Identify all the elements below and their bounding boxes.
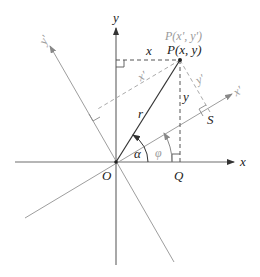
right-angle-marker-q xyxy=(172,154,180,162)
origin-label: O xyxy=(102,168,112,183)
point-p xyxy=(178,58,182,62)
dashed-x-prime-segment xyxy=(96,60,180,110)
segment-x-prime-label: x' xyxy=(134,68,149,85)
rotation-diagram: y x x' y' O Q S P(x', y') P(x, y) x y x'… xyxy=(0,0,260,277)
point-q-label: Q xyxy=(174,168,184,183)
angle-phi-arc xyxy=(164,133,172,162)
point-p-prime-label: P(x', y') xyxy=(164,29,202,43)
y-axis-label: y xyxy=(111,10,119,25)
angle-phi-label: φ xyxy=(155,146,162,160)
point-p-label: P(x, y) xyxy=(166,42,202,57)
y-prime-axis-label: y' xyxy=(35,33,52,48)
angle-alpha-label: α xyxy=(134,146,142,161)
segment-x-label: x xyxy=(145,43,152,58)
x-axis-label: x xyxy=(239,154,246,169)
x-prime-axis-label: x' xyxy=(230,83,245,100)
dashed-y-prime-segment xyxy=(180,60,210,112)
point-s-label: S xyxy=(207,112,214,127)
origin-point xyxy=(114,160,118,164)
segment-y-label: y xyxy=(181,89,189,104)
right-angle-marker-y-prime xyxy=(89,114,100,121)
right-angle-marker-y-axis xyxy=(116,60,124,67)
